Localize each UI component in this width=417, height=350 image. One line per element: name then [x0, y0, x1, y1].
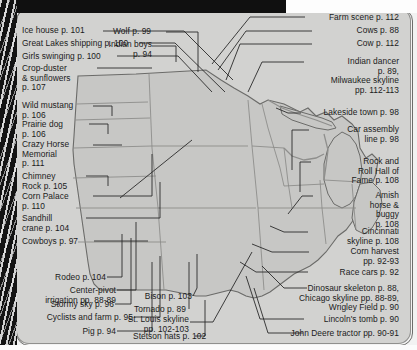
label-lincolns-tomb: Lincoln's tomb p. 90 — [254, 315, 399, 325]
label-john-deere: John Deere tractor pp. 90-91 — [240, 329, 399, 339]
screenshot-stage: Ice house p. 101 Great Lakes shipping p.… — [0, 0, 417, 350]
label-indian-boys: Indian boys p. 94 — [104, 40, 152, 59]
label-cows: Cows p. 88 — [286, 26, 399, 36]
label-chimney-rock: Chimney Rock p. 105 — [22, 172, 67, 191]
label-bison: Bison p. 103 — [133, 292, 192, 302]
scan-left-texture — [0, 0, 17, 350]
label-girls-swinging: Girls swinging p. 100 — [22, 52, 101, 62]
label-rock-roll: Rock and Roll Hall of Fame p. 108 — [286, 157, 399, 186]
label-wolf: Wolf p. 99 — [113, 27, 151, 37]
label-crazy-horse: Crazy Horse Memorial p. 111 — [22, 140, 69, 169]
label-crop-duster: Crop-duster & sunflowers p. 107 — [22, 64, 71, 93]
label-amish: Amish horse & buggy p. 108 — [286, 191, 399, 229]
label-pig: Pig p. 94 — [10, 327, 116, 337]
label-cow: Cow p. 112 — [286, 39, 399, 49]
scan-top-dark-band — [0, 0, 286, 13]
label-car-assembly: Car assembly line p. 98 — [286, 125, 399, 144]
label-stetson-hats: Stetson hats p. 102 — [133, 332, 206, 342]
label-sandhill-crane: Sandhill crane p. 104 — [22, 214, 69, 233]
scan-bottom-white-band — [0, 345, 417, 350]
label-corn-palace: Corn Palace p. 110 — [22, 192, 69, 211]
label-dinosaur-chicago: Dinosaur skeleton p. 88, Chicago skyline… — [254, 284, 399, 313]
label-stormy-sky: Stormy sky p. 96 — [10, 300, 114, 310]
label-cowboys: Cowboys p. 97 — [22, 237, 78, 247]
label-prairie-dog: Prairie dog p. 106 — [22, 120, 63, 139]
label-rodeo: Rodeo p. 104 — [10, 273, 106, 283]
label-wild-mustang: Wild mustang p. 106 — [22, 101, 73, 120]
label-indian-dancer: Indian dancer p. 89, Milwaukee skyline p… — [286, 57, 399, 95]
scan-top-white-band — [286, 0, 417, 13]
label-cincinnati: Cincinnati skyline p. 108 — [286, 227, 399, 246]
label-race-cars: Race cars p. 92 — [286, 268, 399, 278]
label-farm-scene: Farm scene p. 112 — [286, 13, 399, 23]
label-corn-harvest: Corn harvest pp. 92-93 — [286, 247, 399, 266]
label-cyclists-farm: Cyclists and farm p. 95 — [10, 313, 133, 323]
label-ice-house: Ice house p. 101 — [22, 26, 85, 36]
label-lakeside-town: Lakeside town p. 98 — [286, 108, 399, 118]
